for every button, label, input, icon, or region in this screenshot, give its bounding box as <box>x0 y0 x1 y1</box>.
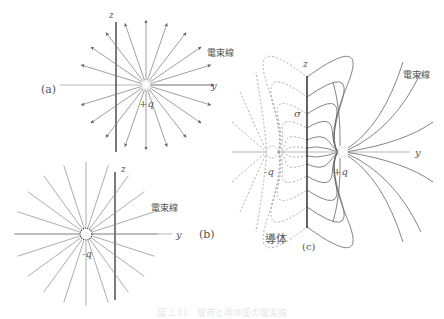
figure-caption: 図 2.11 電荷と導体面の電束線 <box>0 306 444 319</box>
sigma-label: σ <box>294 108 302 119</box>
panel-a-z-label: z <box>108 10 114 20</box>
panel-a <box>60 20 214 152</box>
panel-a-tag: (a) <box>41 83 56 96</box>
figure-canvas: (a) z y +q 電束線 (b) z y -q 電束線 z y +q -q … <box>0 0 444 319</box>
panel-b-charge-label: -q <box>82 248 92 259</box>
panel-c-z-label: z <box>302 59 308 69</box>
panel-b-z-label: z <box>120 164 126 174</box>
image-charge-minus <box>266 146 278 158</box>
panel-b-tag: (b) <box>199 228 215 241</box>
panel-c-charge-plus-label: +q <box>333 166 348 177</box>
panel-a-charge-label: +q <box>139 98 154 109</box>
charge-minus-b <box>80 228 92 240</box>
panel-c <box>232 56 433 248</box>
charge-plus-c <box>338 147 348 157</box>
panel-b-line-label: 電束線 <box>151 202 178 213</box>
panel-c-charge-minus-label: -q <box>264 166 274 177</box>
charge-plus-a <box>142 81 150 89</box>
panel-a-y-label: y <box>210 80 217 91</box>
panel-a-line-label: 電束線 <box>207 47 234 58</box>
panel-c-tag: (c) <box>302 241 316 252</box>
panel-b <box>14 162 172 306</box>
panel-c-y-label: y <box>414 147 421 158</box>
panel-b-y-label: y <box>175 229 182 240</box>
panel-c-line-label: 電束線 <box>403 69 430 80</box>
conductor-label: 導体 <box>265 232 287 246</box>
